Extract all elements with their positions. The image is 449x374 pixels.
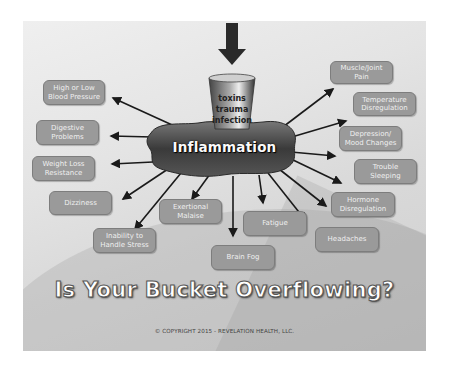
bucket-label: toxins trauma infection xyxy=(212,93,252,126)
symptom-box: Inability to Handle Stress xyxy=(93,228,156,253)
symptom-box: Muscle/Joint Pain xyxy=(330,61,393,84)
copyright-text: © COPYRIGHT 2015 - REVELATION HEALTH, LL… xyxy=(23,328,426,334)
symptom-box: Depression/ Mood Changes xyxy=(339,126,402,151)
symptom-box: Brain Fog xyxy=(211,245,275,270)
symptom-box: Hormone Disregulation xyxy=(331,192,395,217)
symptom-box: Temperature Disregulation xyxy=(353,92,416,116)
down-arrow-icon xyxy=(218,23,246,65)
symptom-box: High or Low Blood Pressure xyxy=(43,80,105,105)
symptom-box: Digestive Problems xyxy=(36,120,99,145)
symptom-box: Exertional Malaise xyxy=(159,199,222,224)
symptom-box: Weight Loss Resistance xyxy=(32,156,95,181)
symptom-box: Fatigue xyxy=(243,211,307,236)
slide-title: Is Your Bucket Overflowing? xyxy=(23,278,426,302)
symptom-box: Dizziness xyxy=(49,191,112,215)
symptom-box: Headaches xyxy=(315,227,379,252)
symptom-box: Trouble Sleeping xyxy=(354,159,417,184)
slide: toxins trauma infection Inflammation Hig… xyxy=(23,21,426,351)
